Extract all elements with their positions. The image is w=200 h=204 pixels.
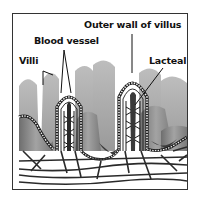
label-outer-wall-of-villus: Outer wall of villus [84,19,181,30]
label-lacteal: Lacteal [149,55,186,66]
vessel-network [19,147,187,184]
label-blood-vessel: Blood vessel [34,35,99,46]
label-villi: Villi [19,55,38,66]
